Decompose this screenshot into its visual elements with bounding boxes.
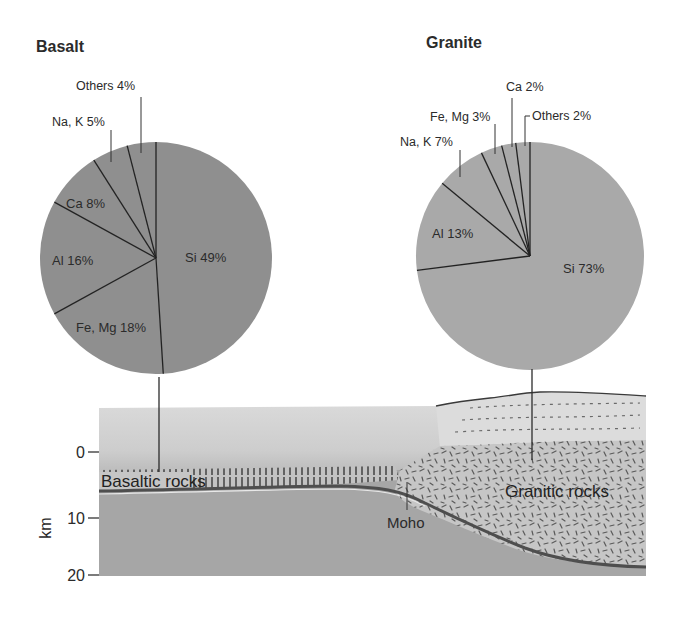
granite-label-femg: Fe, Mg 3% bbox=[430, 110, 490, 124]
basalt-label-nak: Na, K 5% bbox=[52, 115, 105, 129]
basalt-label-femg: Fe, Mg 18% bbox=[76, 320, 147, 335]
granite-title: Granite bbox=[426, 34, 482, 51]
ocean-layer bbox=[99, 406, 465, 470]
granite-label-nak: Na, K 7% bbox=[400, 135, 453, 149]
depth-tick-10: 10 bbox=[67, 510, 85, 527]
basaltic-rocks-label: Basaltic rocks bbox=[101, 472, 206, 491]
depth-tick-20: 20 bbox=[67, 567, 85, 584]
granitic-rocks-label: Granitic rocks bbox=[505, 482, 609, 501]
moho-label: Moho bbox=[387, 514, 425, 531]
rock-composition-figure: Basalt Granite Others 4% Na, K 5% Ca 8% … bbox=[0, 0, 678, 618]
granite-leader-others bbox=[525, 116, 530, 146]
basalt-label-si: Si 49% bbox=[185, 250, 227, 265]
granite-label-others: Others 2% bbox=[532, 109, 591, 123]
basalt-label-ca: Ca 8% bbox=[66, 196, 105, 211]
basalt-label-others: Others 4% bbox=[76, 79, 135, 93]
depth-axis-label: km bbox=[37, 517, 54, 538]
depth-tick-0: 0 bbox=[76, 444, 85, 461]
granite-label-ca: Ca 2% bbox=[506, 80, 544, 94]
granite-label-si: Si 73% bbox=[563, 261, 605, 276]
granite-pie bbox=[416, 142, 644, 370]
granite-label-al: Al 13% bbox=[432, 226, 474, 241]
basalt-title: Basalt bbox=[36, 38, 85, 55]
basalt-label-al: Al 16% bbox=[52, 253, 94, 268]
